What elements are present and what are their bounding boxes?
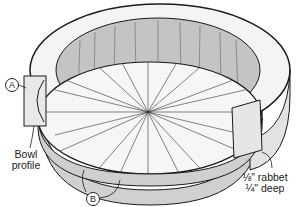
bowl-profile-label: Bowl profile — [6, 149, 46, 171]
callout-b: B — [86, 192, 100, 206]
rabbet-line2: ¼" deep — [232, 183, 298, 194]
bowl-profile-line2: profile — [6, 160, 46, 171]
rabbet-label: ⅛" rabbet ¼" deep — [232, 172, 298, 194]
diagram-canvas: A B Bowl profile ⅛" rabbet ¼" deep — [0, 0, 299, 207]
callout-a: A — [5, 78, 19, 92]
